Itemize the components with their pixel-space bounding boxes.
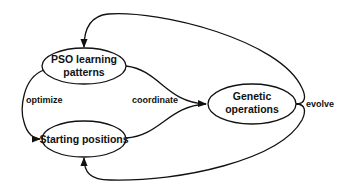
node-genetic-label-line2: operations	[225, 103, 279, 115]
node-pso-label-line1: PSO learning	[51, 53, 117, 65]
node-pso-label-line2: patterns	[63, 66, 105, 78]
label-coordinate: coordinate	[132, 95, 178, 105]
node-genetic-operations: Genetic operations	[208, 84, 296, 124]
node-starting-positions: Starting positions	[39, 121, 128, 157]
node-genetic-label-line1: Genetic	[233, 90, 272, 102]
edge-start-to-genetic	[126, 104, 206, 138]
label-evolve: evolve	[306, 99, 334, 109]
node-pso-learning-patterns: PSO learning patterns	[42, 48, 126, 84]
node-start-label: Starting positions	[39, 133, 128, 145]
diagram-canvas: PSO learning patterns Starting positions…	[0, 0, 351, 196]
label-optimize: optimize	[26, 95, 63, 105]
